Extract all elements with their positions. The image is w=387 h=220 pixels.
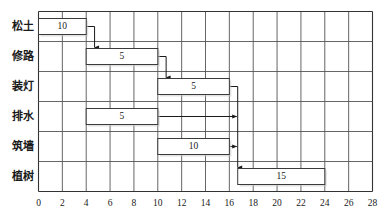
x-axis-tick-label: 12	[170, 198, 194, 208]
gantt-bar[interactable]	[158, 79, 230, 95]
x-axis-tick-label: 4	[74, 198, 98, 208]
gantt-row-label-2: 装灯	[12, 81, 35, 92]
x-axis-tick-label: 6	[98, 198, 122, 208]
gantt-row-label-4: 筑墙	[12, 141, 35, 152]
gantt-row-label-0: 松土	[12, 21, 35, 32]
gantt-row-label-1: 修路	[12, 51, 35, 62]
gantt-row-label-3: 排水	[12, 111, 35, 122]
gantt-bar[interactable]	[39, 19, 87, 35]
x-axis-tick-label: 26	[337, 198, 361, 208]
x-axis-tick-label: 0	[27, 198, 51, 208]
gantt-bar[interactable]	[158, 139, 230, 155]
gantt-chart-canvas	[0, 0, 387, 220]
x-axis-tick-label: 8	[122, 198, 146, 208]
x-axis-tick-label: 2	[50, 198, 74, 208]
x-axis-tick-label: 10	[146, 198, 170, 208]
gantt-bar[interactable]	[86, 49, 158, 65]
gantt-bar[interactable]	[86, 109, 158, 125]
gantt-row-label-5: 植树	[12, 171, 35, 182]
x-axis-tick-label: 20	[265, 198, 289, 208]
x-axis-tick-label: 14	[194, 198, 218, 208]
x-axis-tick-label: 16	[217, 198, 241, 208]
gantt-bar[interactable]	[238, 169, 325, 185]
gantt-chart: 105551015松土修路装灯排水筑墙植树0246810121416182022…	[0, 0, 387, 220]
x-axis-tick-label: 24	[313, 198, 337, 208]
x-axis-tick-label: 18	[241, 198, 265, 208]
x-axis-tick-label: 28	[361, 198, 385, 208]
x-axis-tick-label: 22	[289, 198, 313, 208]
